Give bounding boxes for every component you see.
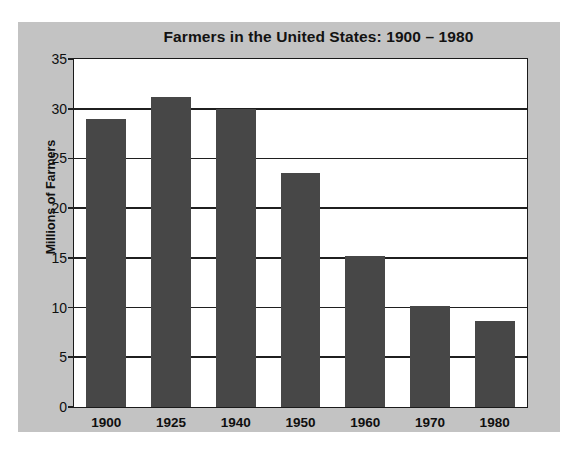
y-axis-tick-mark xyxy=(68,257,74,259)
chart-figure-panel: Farmers in the United States: 1900 – 198… xyxy=(18,22,560,432)
y-axis-tick-label: 20 xyxy=(51,200,67,216)
bar xyxy=(86,119,126,407)
y-axis-tick-mark xyxy=(68,158,74,160)
bar xyxy=(345,256,385,407)
x-axis-tick-label: 1970 xyxy=(415,415,445,430)
x-axis-tick-label: 1925 xyxy=(156,415,186,430)
x-axis-tick-label: 1980 xyxy=(480,415,510,430)
bar xyxy=(410,306,450,407)
y-axis-tick-mark xyxy=(68,58,74,60)
chart-title: Farmers in the United States: 1900 – 198… xyxy=(91,28,546,46)
bar xyxy=(475,321,515,408)
gridline xyxy=(74,108,527,110)
y-axis-tick-mark xyxy=(68,307,74,309)
gridline xyxy=(74,158,527,160)
y-axis-tick-mark xyxy=(68,108,74,110)
y-axis-tick-label: 30 xyxy=(51,101,67,117)
bar xyxy=(216,109,256,407)
x-axis-tick-label: 1900 xyxy=(91,415,121,430)
x-axis-tick-label: 1950 xyxy=(285,415,315,430)
plot-area: 3530252015105019001925194019501960197019… xyxy=(73,58,528,408)
y-axis-tick-mark xyxy=(68,356,74,358)
x-axis-tick-label: 1960 xyxy=(350,415,380,430)
bar xyxy=(281,173,321,407)
y-axis-tick-label: 25 xyxy=(51,150,67,166)
y-axis-tick-mark xyxy=(68,207,74,209)
x-axis-tick-label: 1940 xyxy=(221,415,251,430)
y-axis-tick-label: 10 xyxy=(51,300,67,316)
y-axis-tick-label: 0 xyxy=(59,399,67,415)
y-axis-tick-label: 35 xyxy=(51,51,67,67)
y-axis-tick-label: 15 xyxy=(51,250,67,266)
y-axis-tick-mark xyxy=(68,406,74,408)
y-axis-tick-label: 5 xyxy=(59,349,67,365)
bar xyxy=(151,97,191,407)
